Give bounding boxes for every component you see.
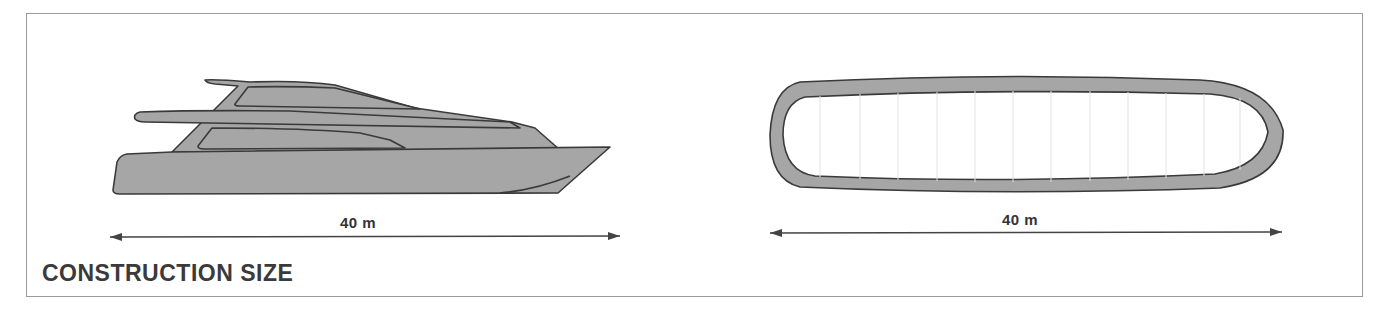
ring-icon bbox=[770, 76, 1283, 191]
ship-dimension-arrow bbox=[110, 236, 620, 237]
diagram-title: CONSTRUCTION SIZE bbox=[42, 260, 293, 287]
ship-dimension-label: 40 m bbox=[340, 214, 376, 231]
ship-icon bbox=[113, 80, 610, 194]
ring-dimension-arrow bbox=[770, 232, 1282, 233]
ring-dimension-label: 40 m bbox=[1002, 211, 1038, 228]
